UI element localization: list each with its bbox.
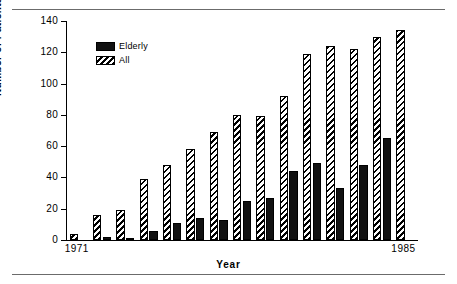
y-tick-mark [61, 146, 66, 147]
x-tick-label: 1971 [65, 243, 89, 254]
bar-group [160, 21, 183, 240]
bar-all [93, 215, 101, 240]
bar-all [396, 30, 404, 240]
legend-label-elderly: Elderly [119, 41, 148, 51]
bar-all [373, 37, 381, 240]
legend-label-all: All [119, 55, 130, 65]
bar-all [140, 179, 148, 240]
y-tick-label: 40 [46, 170, 58, 183]
bar-all [163, 165, 171, 240]
bar-elderly [243, 201, 251, 240]
figure-bottom-rule [12, 274, 445, 275]
bar-group [277, 21, 300, 240]
y-tick-label: 60 [46, 139, 58, 152]
legend-swatch-all-icon [96, 56, 115, 65]
bar-all [303, 54, 311, 240]
legend-item-elderly: Elderly [96, 40, 148, 52]
bar-group [300, 21, 323, 240]
bar-elderly [219, 220, 227, 240]
legend-swatch-elderly-icon [96, 42, 115, 51]
bar-elderly [359, 165, 367, 240]
bar-elderly [149, 231, 157, 240]
bar-all [186, 149, 194, 240]
bar-group [370, 21, 393, 240]
y-tick-label: 0 [52, 233, 58, 246]
y-tick-label: 80 [46, 108, 58, 121]
bar-all [233, 115, 241, 240]
bar-elderly [289, 171, 297, 240]
x-axis-label: Year [0, 259, 457, 270]
y-tick-mark [61, 115, 66, 116]
bar-group [394, 21, 417, 240]
bar-elderly [383, 138, 391, 240]
y-tick-mark [61, 240, 66, 241]
bar-all [280, 96, 288, 240]
x-axis-line [66, 240, 418, 241]
bar-elderly [173, 223, 181, 240]
y-axis-label: Number of Patients [0, 0, 3, 96]
bar-group [67, 21, 90, 240]
bar-group [324, 21, 347, 240]
bar-elderly [103, 237, 111, 240]
bar-group [254, 21, 277, 240]
y-tick-mark [61, 209, 66, 210]
bar-elderly [313, 163, 321, 240]
bar-elderly [266, 198, 274, 240]
bar-group [207, 21, 230, 240]
bar-all [350, 49, 358, 240]
y-tick-mark [61, 177, 66, 178]
bar-elderly [126, 238, 134, 240]
bar-all [210, 132, 218, 240]
bar-elderly [196, 218, 204, 240]
y-tick-mark [61, 21, 66, 22]
y-tick-mark [61, 84, 66, 85]
legend-item-all: All [96, 54, 148, 66]
y-tick-mark [61, 52, 66, 53]
bar-group [184, 21, 207, 240]
chart-legend: Elderly All [96, 40, 148, 68]
y-tick-label: 120 [40, 45, 58, 58]
bar-group [347, 21, 370, 240]
y-tick-label: 100 [40, 77, 58, 90]
bar-group [230, 21, 253, 240]
bar-all [326, 46, 334, 240]
bar-all [256, 116, 264, 240]
bar-elderly [336, 188, 344, 240]
bar-all [116, 210, 124, 240]
y-tick: 0 [66, 240, 67, 241]
bar-all [70, 234, 78, 240]
figure-bar-chart: 020406080100120140 Number of Patients Ye… [0, 0, 457, 284]
x-tick-label: 1985 [391, 243, 415, 254]
figure-top-rule [12, 9, 445, 10]
y-tick-label: 140 [40, 14, 58, 27]
y-tick-label: 20 [46, 202, 58, 215]
